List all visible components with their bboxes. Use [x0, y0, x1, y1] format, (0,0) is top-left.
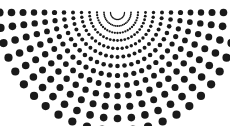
data-point: [154, 107, 162, 115]
data-point: [125, 92, 131, 98]
data-point: [99, 22, 101, 24]
data-point: [178, 93, 186, 101]
data-point: [84, 42, 88, 46]
data-point: [108, 63, 113, 68]
data-point: [39, 84, 47, 92]
data-point: [120, 39, 123, 42]
data-point: [105, 82, 111, 88]
data-point: [62, 10, 67, 15]
data-point: [165, 76, 171, 82]
data-point: [20, 9, 27, 16]
data-point: [136, 60, 141, 65]
data-point: [116, 32, 118, 34]
data-point: [101, 62, 106, 67]
data-point: [116, 47, 119, 50]
data-point: [144, 15, 147, 18]
data-point: [114, 115, 122, 123]
data-point: [187, 19, 193, 25]
data-point: [173, 54, 179, 60]
data-point: [47, 76, 54, 83]
data-point: [158, 22, 162, 26]
data-point: [87, 77, 93, 83]
data-point: [133, 33, 136, 36]
data-point: [181, 76, 188, 83]
data-point: [160, 16, 164, 20]
data-point: [147, 42, 151, 46]
data-point: [100, 24, 102, 26]
data-point: [96, 31, 99, 34]
data-point: [77, 33, 81, 37]
data-point: [52, 10, 57, 15]
data-point: [88, 11, 91, 14]
data-point: [30, 73, 38, 81]
data-point: [120, 25, 122, 27]
data-point: [49, 93, 57, 101]
data-point: [158, 43, 163, 48]
data-point: [105, 18, 107, 20]
data-point: [136, 17, 138, 19]
data-point: [123, 38, 126, 41]
data-point: [159, 54, 164, 59]
data-point: [103, 13, 105, 15]
data-point: [173, 68, 179, 74]
data-point: [206, 62, 214, 70]
data-point: [127, 53, 131, 57]
data-point: [39, 67, 46, 74]
data-point: [130, 12, 132, 14]
data-point: [137, 14, 139, 16]
data-point: [122, 63, 127, 68]
data-point: [143, 18, 146, 21]
data-point: [73, 22, 77, 26]
data-point: [172, 84, 179, 91]
data-point: [42, 10, 48, 16]
data-point: [134, 22, 136, 24]
data-point: [102, 103, 109, 110]
data-point: [54, 26, 59, 31]
data-point: [198, 9, 204, 15]
data-point: [27, 45, 34, 52]
data-point: [142, 57, 147, 62]
data-point: [104, 17, 106, 19]
data-point: [136, 90, 142, 96]
data-point: [156, 82, 162, 88]
data-point: [93, 49, 97, 53]
data-point: [216, 36, 224, 44]
data-point: [195, 31, 201, 37]
data-point: [47, 38, 53, 44]
data-point: [136, 31, 139, 34]
data-point: [160, 11, 164, 15]
data-point: [109, 30, 111, 32]
data-point: [65, 48, 70, 53]
data-point: [70, 54, 75, 59]
data-point: [189, 84, 197, 92]
data-point: [87, 33, 90, 36]
data-point: [114, 104, 121, 111]
data-point: [151, 16, 154, 19]
data-point: [103, 12, 105, 14]
data-point: [172, 111, 180, 119]
data-point: [88, 15, 91, 18]
data-point: [97, 19, 99, 21]
data-point: [129, 28, 131, 30]
data-point: [219, 23, 227, 31]
data-point: [207, 80, 215, 88]
data-point: [77, 48, 82, 53]
data-point: [89, 18, 92, 21]
data-point: [90, 100, 97, 107]
data-point: [74, 28, 78, 32]
data-point: [153, 48, 158, 53]
data-point: [48, 60, 54, 66]
data-point: [11, 36, 19, 44]
radial-dot-fan-chart: [0, 0, 230, 126]
data-point: [123, 23, 125, 25]
data-point: [182, 38, 188, 44]
data-point: [216, 67, 224, 75]
data-point: [154, 33, 158, 37]
data-point: [209, 9, 216, 16]
data-point: [166, 61, 172, 67]
data-point: [60, 41, 65, 46]
data-point: [20, 80, 28, 88]
data-point: [78, 96, 85, 103]
data-point: [167, 24, 172, 29]
data-point: [144, 11, 147, 14]
